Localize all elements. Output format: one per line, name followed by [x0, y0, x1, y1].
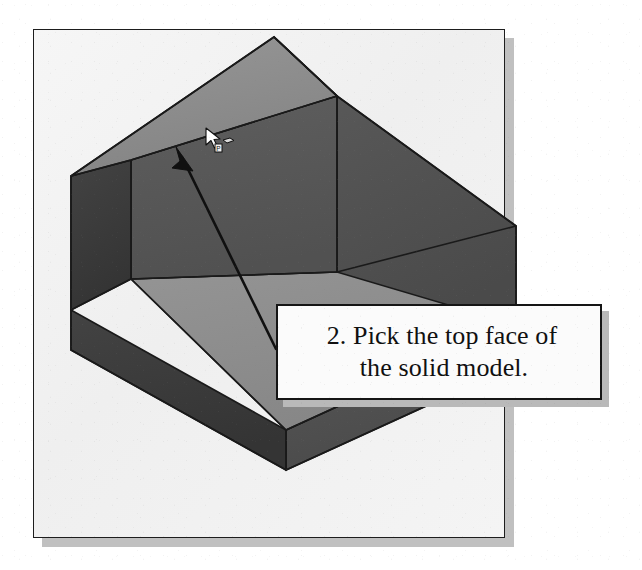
callout-line-2: the solid model.	[350, 352, 528, 384]
callout-line-1: 2. Pick the top face of	[321, 320, 557, 352]
callout-box: 2. Pick the top face of the solid model.	[276, 304, 602, 400]
illustration-frame	[33, 29, 505, 538]
figure-canvas: P 2. Pick the top face of the solid mode…	[0, 0, 642, 570]
svg-text:P: P	[216, 145, 220, 152]
frame-background	[34, 30, 504, 537]
face-select-badge-icon: P	[215, 138, 234, 152]
arrow-pointer-with-face-select-badge: P	[203, 127, 237, 157]
